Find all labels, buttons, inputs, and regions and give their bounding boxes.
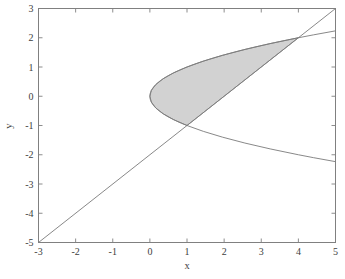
y-axis-label: y (3, 123, 14, 129)
y-tick-labels: -5-4-3-2-10123 (25, 3, 33, 248)
y-tick-label: 1 (29, 62, 34, 73)
x-tick-label: -2 (71, 246, 79, 257)
x-tick-label: 5 (333, 246, 338, 257)
y-tick-label: 2 (29, 32, 34, 43)
x-tick-label: 1 (185, 246, 190, 257)
x-tick-label: 4 (296, 246, 301, 257)
x-tick-label: -3 (34, 246, 42, 257)
shaded-region (150, 38, 299, 126)
x-tick-label: 0 (147, 246, 152, 257)
figure-container: -3-2-1012345 -5-4-3-2-10123 x y (0, 0, 345, 279)
y-tick-label: 3 (29, 3, 34, 14)
y-tick-label: 0 (29, 91, 34, 102)
x-tick-label: 3 (259, 246, 264, 257)
y-tick-label: -1 (25, 120, 33, 131)
y-tick-label: -4 (25, 208, 33, 219)
shaded-region-group (150, 38, 299, 126)
chart-canvas: -3-2-1012345 -5-4-3-2-10123 x y (0, 0, 345, 279)
x-tick-label: -1 (109, 246, 117, 257)
curve-straight-line (39, 9, 336, 243)
y-tick-label: -2 (25, 149, 33, 160)
x-axis-label: x (184, 260, 190, 271)
y-tick-label: -3 (25, 179, 33, 190)
y-tick-label: -5 (25, 237, 33, 248)
x-tick-labels: -3-2-1012345 (34, 246, 338, 257)
x-tick-label: 2 (222, 246, 227, 257)
curves-group (39, 9, 336, 243)
